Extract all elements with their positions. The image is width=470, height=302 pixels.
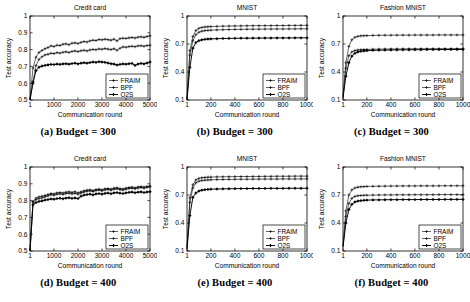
svg-text:Test accuracy: Test accuracy [162,188,170,229]
plot-panel: Fashion MNIST120040060080010000.10.40.71… [313,151,470,279]
svg-text:800: 800 [277,252,288,259]
svg-text:5000: 5000 [143,101,157,108]
subplot-caption-c: (c) Budget = 300 [313,126,470,137]
subplot-d: Credit card1100020003000400050000.50.60.… [0,151,157,302]
svg-text:O2S: O2S [277,91,290,98]
svg-text:0.4: 0.4 [175,68,184,75]
svg-text:2000: 2000 [71,252,86,259]
svg-text:400: 400 [229,101,240,108]
svg-text:O2S: O2S [434,91,447,98]
svg-text:0.5: 0.5 [18,96,27,103]
svg-text:800: 800 [277,101,288,108]
svg-text:1000: 1000 [456,252,470,259]
subplot-c: Fashion MNIST120040060080010000.10.40.71… [313,0,470,151]
svg-text:Communication round: Communication round [58,262,123,269]
svg-text:600: 600 [253,101,264,108]
svg-text:BPF: BPF [121,235,134,242]
svg-text:1: 1 [28,252,32,259]
svg-text:Test accuracy: Test accuracy [318,37,326,78]
svg-text:FRAIM: FRAIM [434,77,454,84]
svg-text:3000: 3000 [95,252,110,259]
svg-text:1: 1 [185,101,189,108]
svg-text:0.7: 0.7 [175,40,184,47]
svg-text:Communication round: Communication round [58,111,123,118]
svg-text:1: 1 [180,163,184,170]
figure-row-top: Credit card1100020003000400050000.50.60.… [0,0,470,151]
svg-text:MNIST: MNIST [236,155,257,162]
svg-text:BPF: BPF [277,235,290,242]
svg-text:200: 200 [362,252,373,259]
svg-text:1000: 1000 [47,252,62,259]
svg-text:O2S: O2S [434,242,447,249]
svg-text:0.1: 0.1 [175,96,184,103]
svg-text:600: 600 [410,101,421,108]
svg-text:1: 1 [341,101,345,108]
subplot-caption-a: (a) Budget = 300 [0,126,157,137]
svg-text:0.6: 0.6 [18,231,27,238]
svg-text:Credit card: Credit card [74,4,107,11]
svg-text:0.7: 0.7 [18,63,27,70]
subplot-b: MNIST120040060080010000.10.40.71Communic… [157,0,314,151]
svg-text:0.4: 0.4 [332,219,341,226]
svg-text:200: 200 [205,252,216,259]
svg-text:1000: 1000 [47,101,62,108]
svg-text:1000: 1000 [456,101,470,108]
svg-text:0.1: 0.1 [332,96,341,103]
figure-row-bottom: Credit card1100020003000400050000.50.60.… [0,151,470,302]
svg-text:600: 600 [253,252,264,259]
plot-panel: Fashion MNIST120040060080010000.10.40.71… [313,0,470,128]
svg-text:Test accuracy: Test accuracy [318,188,326,229]
subplot-caption-f: (f) Budget = 400 [313,277,470,288]
svg-text:0.6: 0.6 [18,80,27,87]
svg-text:800: 800 [434,252,445,259]
svg-text:0.4: 0.4 [175,219,184,226]
svg-text:400: 400 [386,101,397,108]
svg-text:1: 1 [180,12,184,19]
svg-text:4000: 4000 [119,101,134,108]
svg-text:1: 1 [337,163,341,170]
svg-text:BPF: BPF [121,84,134,91]
svg-text:0.7: 0.7 [18,214,27,221]
svg-text:0.9: 0.9 [18,180,27,187]
svg-text:O2S: O2S [277,242,290,249]
svg-text:0.1: 0.1 [175,247,184,254]
subplot-f: Fashion MNIST120040060080010000.10.40.71… [313,151,470,302]
svg-text:Test accuracy: Test accuracy [5,188,13,229]
svg-text:FRAIM: FRAIM [277,228,297,235]
svg-text:0.1: 0.1 [332,247,341,254]
svg-text:Credit card: Credit card [74,155,107,162]
subplot-caption-d: (d) Budget = 400 [0,277,157,288]
svg-text:200: 200 [205,101,216,108]
svg-text:O2S: O2S [121,91,134,98]
svg-text:0.7: 0.7 [175,191,184,198]
svg-text:Communication round: Communication round [214,111,279,118]
svg-text:Communication round: Communication round [371,262,436,269]
svg-text:MNIST: MNIST [236,4,257,11]
svg-text:Test accuracy: Test accuracy [162,37,170,78]
plot-panel: MNIST120040060080010000.10.40.71Communic… [157,151,314,279]
svg-text:Test accuracy: Test accuracy [5,37,13,78]
svg-text:0.8: 0.8 [18,197,27,204]
plot-panel: Credit card1100020003000400050000.50.60.… [0,151,157,279]
svg-text:400: 400 [229,252,240,259]
svg-text:1000: 1000 [299,252,313,259]
svg-text:200: 200 [362,101,373,108]
svg-text:Communication round: Communication round [371,111,436,118]
svg-text:0.7: 0.7 [332,40,341,47]
svg-text:0.8: 0.8 [18,46,27,53]
svg-text:800: 800 [434,101,445,108]
svg-text:2000: 2000 [71,101,86,108]
svg-text:0.7: 0.7 [332,191,341,198]
svg-text:5000: 5000 [143,252,157,259]
svg-text:FRAIM: FRAIM [277,77,297,84]
plot-panel: Credit card1100020003000400050000.50.60.… [0,0,157,128]
svg-text:BPF: BPF [277,84,290,91]
subplot-caption-b: (b) Budget = 300 [157,126,314,137]
svg-text:BPF: BPF [434,84,447,91]
svg-text:0.4: 0.4 [332,68,341,75]
svg-text:4000: 4000 [119,252,134,259]
subplot-a: Credit card1100020003000400050000.50.60.… [0,0,157,151]
svg-text:FRAIM: FRAIM [121,228,141,235]
svg-text:600: 600 [410,252,421,259]
svg-text:1: 1 [341,252,345,259]
